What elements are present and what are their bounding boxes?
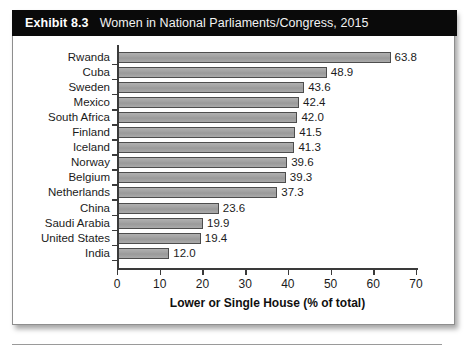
y-axis-tick [112,230,118,231]
bar-value-label: 41.3 [298,140,320,154]
bar-value-label: 37.3 [281,185,303,199]
bar [118,142,294,153]
bar-value-label: 42.4 [303,95,325,109]
y-axis-tick [112,184,118,185]
x-axis-tick-label: 50 [311,277,351,291]
x-axis-tick-label: 20 [182,277,222,291]
category-label: India [0,246,110,260]
category-label: Rwanda [0,50,110,64]
bar [118,52,391,63]
bar-value-label: 39.3 [290,170,312,184]
category-label: Belgium [0,170,110,184]
bar [118,127,295,138]
exhibit-title-bar: Exhibit 8.3 Women in National Parliament… [12,10,457,36]
category-label: China [0,201,110,215]
bar-value-label: 43.6 [308,80,330,94]
y-axis-tick [112,260,118,261]
bar-row: Finland41.5 [13,127,454,138]
x-axis-tick [416,269,417,275]
category-label: Mexico [0,95,110,109]
x-axis-tick-label: 60 [353,277,393,291]
y-axis-tick [112,169,118,170]
category-label: Norway [0,155,110,169]
x-axis-tick [245,269,246,275]
x-axis-tick-label: 0 [97,277,137,291]
bar-row: China23.6 [13,203,454,214]
y-axis-tick [112,139,118,140]
x-axis-tick-label: 40 [268,277,308,291]
x-axis-tick [117,269,118,275]
x-axis-tick-label: 70 [396,277,436,291]
x-axis-tick [288,269,289,275]
bar-row: Iceland41.3 [13,142,454,153]
bar-row: South Africa42.0 [13,112,454,123]
bar-row: Cuba48.9 [13,67,454,78]
bar-row: Saudi Arabia19.9 [13,218,454,229]
bar-value-label: 19.9 [207,216,229,230]
y-axis-tick [112,79,118,80]
y-axis-tick [112,215,118,216]
bar-value-label: 23.6 [223,201,245,215]
bar-row: United States19.4 [13,233,454,244]
y-axis-tick [112,245,118,246]
bar [118,172,286,183]
bar-row: Sweden43.6 [13,82,454,93]
x-axis-tick [160,269,161,275]
y-axis-tick [112,154,118,155]
chart-plot-area: Rwanda63.8Cuba48.9Sweden43.6Mexico42.4So… [13,37,454,324]
x-axis-tick [373,269,374,275]
x-axis-tick-label: 30 [225,277,265,291]
x-axis-title: Lower or Single House (% of total) [117,296,418,310]
y-axis-tick [112,199,118,200]
page-divider-rule [12,344,442,345]
x-axis-tick [202,269,203,275]
bar-value-label: 42.0 [301,110,323,124]
bar-value-label: 39.6 [291,155,313,169]
bar [118,67,327,78]
y-axis-tick [112,94,118,95]
bar-series: Rwanda63.8Cuba48.9Sweden43.6Mexico42.4So… [13,37,454,269]
bar [118,157,287,168]
x-axis-tick [331,269,332,275]
exhibit-title: Women in National Parliaments/Congress, … [100,16,369,30]
bar-row: Mexico42.4 [13,97,454,108]
bar-value-label: 12.0 [173,246,195,260]
exhibit-card: Exhibit 8.3 Women in National Parliament… [12,10,455,325]
category-label: Netherlands [0,185,110,199]
bar-value-label: 48.9 [331,65,353,79]
y-axis-tick [112,109,118,110]
category-label: Finland [0,125,110,139]
bar [118,203,219,214]
bar-row: India12.0 [13,248,454,259]
exhibit-number: Exhibit 8.3 [25,16,89,30]
y-axis-tick [112,124,118,125]
bar-value-label: 63.8 [395,50,417,64]
bar [118,97,299,108]
category-label: United States [0,231,110,245]
category-label: Iceland [0,140,110,154]
category-label: Cuba [0,65,110,79]
bar [118,82,304,93]
category-label: Saudi Arabia [0,216,110,230]
bar [118,233,201,244]
y-axis-tick [112,64,118,65]
bar [118,218,203,229]
bar-value-label: 19.4 [205,231,227,245]
bar-row: Rwanda63.8 [13,52,454,63]
bar [118,187,277,198]
bar-row: Belgium39.3 [13,172,454,183]
bar-row: Norway39.6 [13,157,454,168]
x-axis-tick-label: 10 [140,277,180,291]
bar [118,112,297,123]
category-label: Sweden [0,80,110,94]
bar-row: Netherlands37.3 [13,187,454,198]
bar-value-label: 41.5 [299,125,321,139]
category-label: South Africa [0,110,110,124]
bar [118,248,169,259]
